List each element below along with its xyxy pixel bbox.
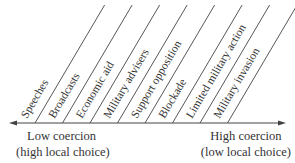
category-line xyxy=(90,5,160,123)
low-coercion-label: Low coercion (high local choice) xyxy=(16,128,110,160)
category-line xyxy=(63,5,133,123)
high-local-choice-text: (high local choice) xyxy=(16,144,110,160)
category-line xyxy=(200,5,270,123)
high-coercion-text: High coercion xyxy=(201,128,291,144)
category-line xyxy=(35,5,105,123)
low-local-choice-text: (low local choice) xyxy=(201,144,291,160)
left-arrow-icon xyxy=(9,121,17,126)
right-arrow-icon xyxy=(278,121,286,126)
category-line xyxy=(118,5,188,123)
category-line xyxy=(145,5,215,123)
category-line xyxy=(173,5,243,123)
high-coercion-label: High coercion (low local choice) xyxy=(201,128,291,160)
low-coercion-text: Low coercion xyxy=(16,128,110,144)
